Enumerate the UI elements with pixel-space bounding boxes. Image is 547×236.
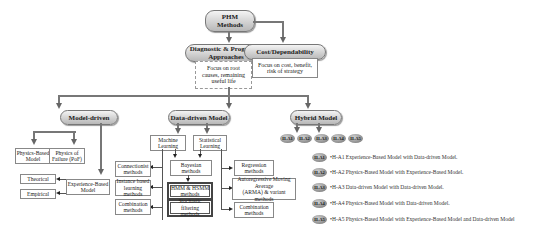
phm-methods-node: PHM Methods (205, 10, 255, 32)
connector (253, 21, 283, 23)
connector (58, 95, 308, 97)
connectionist-methods: Connectionist methods (115, 161, 151, 177)
arrow-down-icon (226, 37, 232, 43)
connector (282, 21, 284, 38)
arrow-down-icon (316, 127, 322, 133)
cost-note: Focus on cost, benefit, risk of strategy (252, 58, 318, 78)
model-driven-node: Model-driven (60, 110, 118, 125)
arma-methods: Autoregressive Moving Average (ARMA) & v… (232, 178, 296, 200)
hybrid-oval-1: H-A1 (280, 134, 295, 143)
machine-learning-box: Machine Learning (150, 135, 186, 151)
arrow-down-icon (204, 128, 210, 134)
legend-badge-1: H-A1 (312, 153, 327, 162)
combination-methods-ml: Combination methods (115, 199, 151, 215)
connector (100, 123, 102, 171)
empirical-box: Empirical (20, 189, 56, 199)
connector (59, 193, 66, 194)
arrow-left-icon (56, 191, 60, 195)
arrow-down-icon (71, 139, 77, 145)
theorical-box: Theorical (20, 174, 56, 184)
connector (59, 179, 66, 180)
legend-text-1: •H-A1 Experience-Based Model with Data-d… (330, 154, 457, 160)
physics-based-model: Physics-Based Model (15, 148, 51, 164)
legend-text-2: •H-A2 Physics-Based Model with Experienc… (330, 169, 463, 175)
regression-methods: Regression methods (234, 160, 274, 176)
arrow-right-icon (229, 166, 233, 170)
arrow-down-icon (173, 154, 177, 158)
phm-line1: PHM (222, 13, 238, 21)
hybrid-oval-5: H-A5 (348, 134, 363, 143)
legend-text-3: •H-A3 Data-driven Model with Data-driven… (330, 184, 444, 190)
arrow-down-icon (305, 103, 311, 109)
stochastic-filtering-methods: Stochastic filtering methods (167, 199, 213, 217)
combination-methods-sl: Combination methods (234, 202, 274, 218)
bayesian-methods: Bayesian methods (170, 160, 212, 176)
arrow-down-icon (31, 139, 37, 145)
diag-line2: Approaches (208, 53, 244, 61)
arrow-down-icon (280, 37, 286, 43)
legend-text-5: •H-A5 Physics-Based Model with Experienc… (330, 216, 515, 222)
connector (152, 167, 162, 168)
connector (221, 149, 222, 210)
arrow-down-icon (226, 103, 232, 109)
physics-of-failure: Physics of Failure (PoF) (49, 148, 85, 164)
arrow-down-icon (175, 128, 181, 134)
connector (162, 149, 163, 220)
legend-text-4: •H-A4 Physics-Based Model with Data-driv… (330, 200, 450, 206)
instance-based-methods: Instance based learning methods (115, 180, 151, 196)
connector (152, 187, 162, 188)
legend-badge-5: H-A5 (312, 215, 327, 224)
hybrid-oval-4: H-A4 (331, 134, 346, 143)
connector (152, 207, 162, 208)
arrow-down-icon (56, 103, 62, 109)
connector (33, 131, 76, 133)
arrow-right-icon (229, 207, 233, 211)
legend-badge-3: H-A3 (312, 183, 327, 192)
arrow-down-icon (294, 127, 300, 133)
arrow-down-icon (198, 154, 202, 158)
legend-badge-2: H-A2 (312, 168, 327, 177)
arrow-down-icon (98, 169, 104, 175)
diagnostic-note: Focus on root causes, remaining useful l… (195, 61, 252, 89)
hybrid-oval-3: H-A3 (314, 134, 329, 143)
arrow-left-icon (56, 177, 60, 181)
hybrid-oval-2: H-A2 (297, 134, 312, 143)
legend-badge-4: H-A4 (312, 199, 327, 208)
experience-based-model: Experience-Based Model (66, 179, 110, 195)
phm-line2: Methods (217, 21, 243, 29)
